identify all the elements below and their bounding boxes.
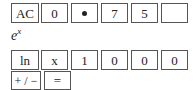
exponential-function-label: ex [11,26,21,44]
key-label: 0 [51,7,58,20]
natural-log-key[interactable]: ln [11,50,39,70]
key-label: 0 [141,54,148,67]
digit-0-key[interactable]: 0 [131,50,158,70]
digit-5-key[interactable]: 5 [131,3,158,23]
key-label: AC [16,7,34,20]
decimal-point-key[interactable] [71,3,98,23]
exponent-text: x [17,26,21,36]
key-label: ln [20,54,30,67]
key-label: = [54,74,61,87]
digit-0-key[interactable]: 0 [161,50,188,70]
equals-key[interactable]: = [44,71,71,90]
digit-0-key[interactable]: 0 [41,3,68,23]
empty-key[interactable] [161,3,188,23]
decimal-dot-icon [82,11,87,16]
digit-0-key[interactable]: 0 [101,50,128,70]
digit-7-key[interactable]: 7 [101,3,128,23]
key-label: 7 [111,7,118,20]
digit-1-key[interactable]: 1 [71,50,98,70]
key-label: + / − [15,75,38,87]
key-label: 0 [171,54,178,67]
key-label: 0 [111,54,118,67]
key-label: x [51,54,58,67]
key-label: 5 [141,7,148,20]
plus-minus-key[interactable]: + / − [11,71,41,90]
key-label: 1 [81,54,88,67]
all-clear-key[interactable]: AC [11,3,39,23]
multiply-key[interactable]: x [41,50,68,70]
